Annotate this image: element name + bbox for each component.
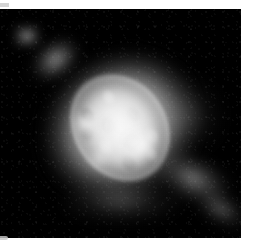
- micrograph-plate: [0, 9, 241, 238]
- scan-artifact-top-left: [0, 3, 9, 7]
- protrusion-upper-left-tip: [12, 23, 42, 49]
- scan-artifact-bottom-left: [0, 236, 8, 240]
- figure-page: Fluorescence micrograph of a single cell…: [0, 0, 254, 250]
